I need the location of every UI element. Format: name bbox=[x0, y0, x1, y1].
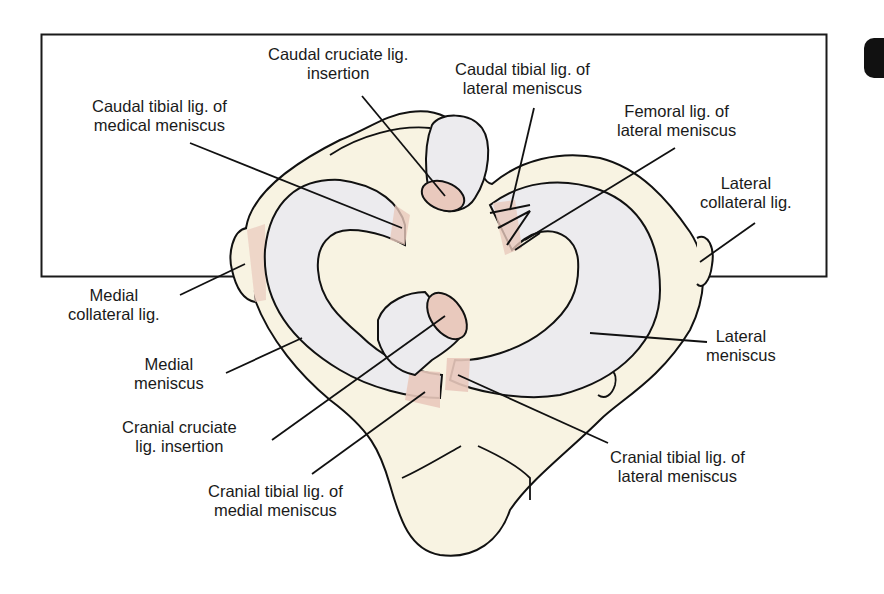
label-lateral-meniscus: Lateral meniscus bbox=[706, 327, 776, 365]
lateral-collateral-ligament-shape bbox=[697, 237, 713, 286]
label-caudal-cruciate: Caudal cruciate lig. insertion bbox=[268, 45, 408, 83]
label-medial-meniscus: Medial meniscus bbox=[134, 355, 204, 393]
label-femoral-lateral: Femoral lig. of lateral meniscus bbox=[617, 102, 736, 140]
label-lateral-collateral: Lateral collateral lig. bbox=[700, 174, 792, 212]
label-cranial-tibial-medial: Cranial tibial lig. of medial meniscus bbox=[208, 482, 343, 520]
page-tab-marker bbox=[864, 38, 884, 78]
cranial-tibial-lateral-ligament bbox=[445, 358, 470, 392]
label-caudal-tibial-medial: Caudal tibial lig. of medical meniscus bbox=[92, 97, 227, 135]
label-medial-collateral: Medial collateral lig. bbox=[68, 286, 160, 324]
label-caudal-tibial-lateral: Caudal tibial lig. of lateral meniscus bbox=[455, 60, 590, 98]
label-cranial-cruciate: Cranial cruciate lig. insertion bbox=[122, 418, 237, 456]
label-cranial-tibial-lateral: Cranial tibial lig. of lateral meniscus bbox=[610, 448, 745, 486]
